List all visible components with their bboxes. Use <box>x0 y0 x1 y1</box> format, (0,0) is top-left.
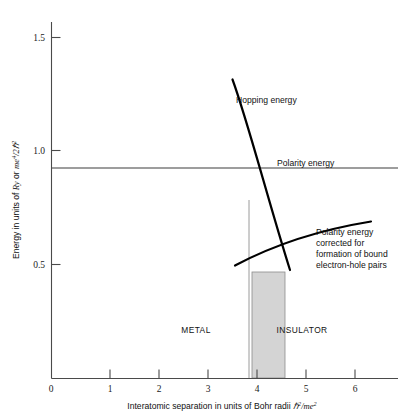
x-ticklabel-5: 5 <box>304 384 309 394</box>
insulator-region-label: INSULATOR <box>276 325 327 335</box>
polarity-energy-label: Polarity energy <box>277 158 335 168</box>
x-ticklabel-6: 6 <box>353 384 358 394</box>
hopping-energy-curve <box>233 80 291 271</box>
y-axis-title: Energy in units of Ry or me4/2ℏ2 <box>10 141 21 259</box>
polarity-corrected-label-line3: formation of bound <box>316 249 388 259</box>
polarity-corrected-label-line1: Polarity energy <box>316 227 374 237</box>
x-ticklabel-0: 0 <box>49 384 54 394</box>
polarity-corrected-label-line4: electron-hole pairs <box>316 260 387 270</box>
hopping-energy-label: Hopping energy <box>236 95 297 105</box>
x-ticklabel-1: 1 <box>108 384 113 394</box>
y-ticklabel-0.5: 0.5 <box>33 260 45 270</box>
polarity-corrected-label-line2: corrected for <box>316 238 364 248</box>
metal-region-label: METAL <box>181 325 211 335</box>
x-ticklabel-2: 2 <box>157 384 162 394</box>
y-ticklabel-1.5: 1.5 <box>33 33 45 43</box>
chart-figure: 1.5 1.0 0.5 0 1 2 3 4 5 6 Hopping energy… <box>0 0 410 420</box>
y-ticklabel-1.0: 1.0 <box>33 146 45 156</box>
x-ticklabel-4: 4 <box>255 384 260 394</box>
x-axis-title: Interatomic separation in units of Bohr … <box>127 400 316 411</box>
chart-svg: 1.5 1.0 0.5 0 1 2 3 4 5 6 Hopping energy… <box>0 0 410 420</box>
x-ticklabel-3: 3 <box>206 384 211 394</box>
